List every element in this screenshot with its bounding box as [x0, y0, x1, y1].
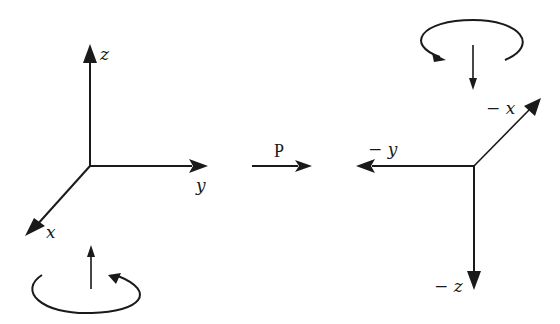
transform-p-arrow [252, 160, 312, 172]
x-axis-arrow [25, 166, 90, 236]
neg-z-axis-arrow [467, 166, 481, 290]
neg-y-axis-label: − y [368, 139, 398, 159]
z-axis-arrow [83, 44, 97, 166]
y-axis-arrow [90, 159, 208, 173]
left-coordinate-frame: z y x [25, 44, 208, 242]
rotation-ccw-icon [32, 245, 140, 313]
x-axis-label: x [46, 222, 56, 242]
rotation-cw-icon [421, 20, 523, 90]
transform-label: P [274, 141, 284, 161]
diagram-canvas: z y x P − y − z − x [0, 0, 560, 324]
neg-z-axis-label: − z [434, 276, 464, 296]
y-axis-label: y [195, 175, 206, 195]
z-axis-label: z [99, 44, 110, 64]
neg-y-axis-arrow [356, 159, 474, 173]
right-coordinate-frame: − y − z − x [356, 98, 541, 296]
neg-x-axis-label: − x [486, 98, 516, 118]
